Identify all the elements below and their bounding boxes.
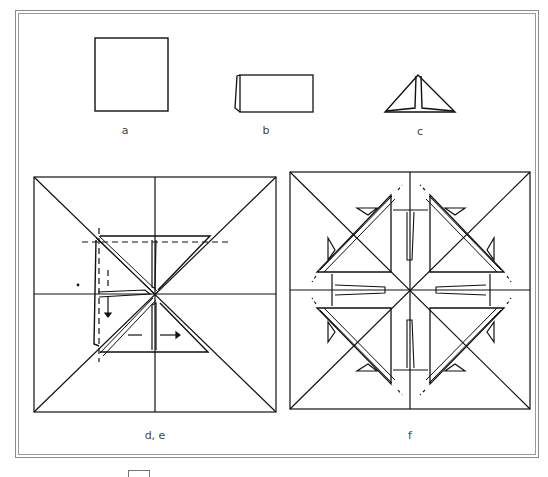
- panel-a-label: a: [105, 124, 145, 137]
- panel-b-label: b: [246, 124, 286, 137]
- page-marker-box: [128, 470, 150, 477]
- panel-f-label: f: [390, 429, 430, 442]
- panel-f-diagram: [290, 172, 530, 409]
- panel-c-triangle: [385, 75, 455, 112]
- panel-a-square: [95, 38, 168, 111]
- panel-de-diagram: [34, 177, 276, 412]
- panel-de-label: d, e: [135, 429, 175, 442]
- panel-b-folded-rect: [235, 75, 313, 112]
- panel-c-label: c: [400, 125, 440, 138]
